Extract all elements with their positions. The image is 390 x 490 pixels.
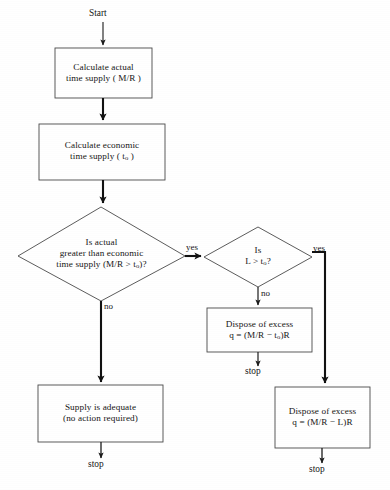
flowchart-canvas: Start Calculate actual time supply ( M/R… xyxy=(0,0,390,490)
process-box-calculate-economic xyxy=(39,124,165,180)
edge-label-no-first: no xyxy=(104,301,113,311)
process-box-dispose-excess-L xyxy=(275,387,370,448)
connector-decision2-yes-to-dispose-L xyxy=(312,252,325,383)
process-box-supply-adequate xyxy=(38,385,163,442)
decision-diamond-actual-vs-economic xyxy=(18,207,185,301)
terminal-start: Start xyxy=(89,8,107,18)
terminal-stop-middle: stop xyxy=(245,366,261,376)
terminal-stop-left: stop xyxy=(88,459,104,469)
edge-label-yes-second: yes xyxy=(313,243,325,253)
process-box-calculate-actual xyxy=(55,48,152,98)
decision-diamond-L-vs-t0 xyxy=(204,227,312,287)
terminal-stop-right: stop xyxy=(309,464,325,474)
edge-label-no-second: no xyxy=(261,288,270,298)
edge-label-yes-first: yes xyxy=(186,242,198,252)
process-box-dispose-excess-t0 xyxy=(207,308,312,352)
